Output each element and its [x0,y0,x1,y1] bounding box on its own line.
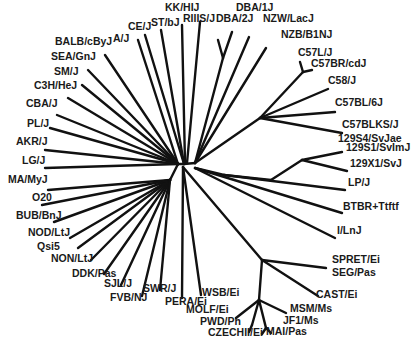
strain-label: PWD/Ph [200,316,241,327]
strain-label: WSB/Ei [202,287,239,298]
strain-label: BTBR+Ttftf [343,201,399,212]
strain-label: ST/bJ [151,17,180,28]
strain-label: KK/HIJ [165,2,199,13]
strain-label: PL/J [27,118,49,129]
tree-branch [223,32,232,58]
strain-label: SWR/J [143,283,176,294]
strain-label: CE/J [128,21,151,32]
tree-branch [302,152,342,160]
strain-label: CZECHII/Ei [208,327,263,338]
strain-label: MSM/Ms [290,303,332,314]
tree-branch [104,180,170,274]
strain-label: SEG/Pas [332,267,376,278]
strain-label: SPRET/Ei [332,254,380,265]
strain-label: SEA/GnJ [51,51,96,62]
strain-label: BUB/BnJ [16,210,62,221]
tree-branch [182,25,185,163]
tree-branch [300,62,303,72]
strain-label: NON/LtJ [51,253,93,264]
strain-label: MA/MyJ [8,174,48,185]
strain-label: C3H/HeJ [34,80,77,91]
strain-label: LG/J [22,155,45,166]
strain-label: 129S1/SvImJ [346,142,410,153]
strain-label: NZW/LacJ [263,13,314,24]
strain-label: CBA/J [26,98,58,109]
strain-label: C57L/J [298,47,332,58]
tree-branch [259,260,262,300]
strain-label: AKR/J [16,136,48,147]
strain-label: DBA/2J [216,13,253,24]
strain-label: JF1/Ms [283,315,319,326]
strain-label: 129X1/SvJ [350,158,402,169]
tree-branch [170,164,178,180]
strain-label: BALB/cByJ [55,36,112,47]
strain-label: CAST/Ei [316,289,357,300]
tree-branch [48,180,170,190]
tree-branch [271,160,302,180]
tree-branch [303,70,312,72]
tree-branch [302,160,347,171]
strain-label: MAI/Pas [266,326,307,337]
strain-label: FVB/NJ [110,292,147,303]
strain-label: RIIIS/J [183,13,215,24]
tree-branch [259,300,266,328]
strain-label: O20 [32,192,52,203]
strain-label: SJL/J [104,278,132,289]
tree-branch [259,300,286,313]
tree-branch [260,72,303,118]
tree-branch [187,22,200,163]
tree-branch [138,40,178,164]
strain-label: C58/J [328,75,356,86]
strain-label: NOD/LtJ [28,227,70,238]
tree-branch [218,40,223,58]
strain-label: C57BL/6J [335,97,383,108]
strain-label: MOLF/Ei [186,304,229,315]
strain-label: C57BLKS/J [342,119,399,130]
strain-label: C57BR/cdJ [311,58,366,69]
strain-label: A/J [113,33,129,44]
strain-label: SM/J [54,66,79,77]
strain-label: I/LnJ [337,225,362,236]
strain-label: Qsi5 [37,241,60,252]
strain-label: LP/J [348,177,370,188]
strain-label: NZB/B1NJ [281,29,332,40]
tree-branch [45,164,178,168]
tree-branch [182,167,183,298]
strain-label: DBA/1J [236,2,273,13]
tree-branch [260,118,342,133]
tree-branch [195,48,266,163]
